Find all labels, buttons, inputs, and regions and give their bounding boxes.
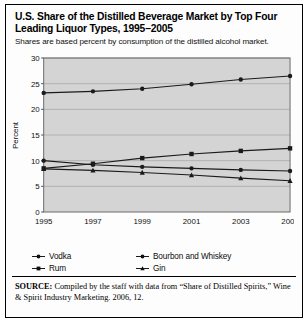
source-text: Compiled by the staff with data from “Sh… [15, 282, 291, 302]
x-tick-label: 1999 [133, 217, 151, 226]
data-point [42, 159, 46, 163]
data-point [288, 74, 292, 78]
y-axis-label-text: Percent [11, 122, 20, 149]
plot-area: 051015202530199519971999200120032005 [22, 54, 294, 234]
data-point [239, 168, 243, 172]
data-point [288, 169, 292, 173]
legend-item-rum: Rum [32, 264, 136, 273]
line-chart: 051015202530199519971999200120032005 [22, 54, 294, 234]
y-tick-label: 25 [31, 80, 40, 89]
x-tick-label: 2003 [232, 217, 250, 226]
legend-label-rum: Rum [49, 264, 66, 273]
data-point [288, 147, 292, 151]
data-point [239, 78, 243, 82]
y-tick-label: 15 [31, 131, 40, 140]
legend-marker-square-icon [32, 265, 45, 272]
y-tick-label: 0 [35, 208, 40, 217]
x-tick-label: 2005 [281, 217, 294, 226]
figure-header: U.S. Share of the Distilled Beverage Mar… [6, 5, 302, 50]
figure-title: U.S. Share of the Distilled Beverage Mar… [15, 11, 294, 35]
data-point [140, 156, 144, 160]
figure-frame: U.S. Share of the Distilled Beverage Mar… [5, 4, 303, 318]
data-point [91, 163, 95, 167]
source-prefix: SOURCE: [15, 282, 52, 291]
data-point [42, 91, 46, 95]
data-point [140, 87, 144, 91]
y-tick-label: 10 [31, 157, 40, 166]
data-point [189, 82, 193, 86]
data-point [189, 152, 193, 156]
x-tick-label: 1995 [35, 217, 53, 226]
legend-item-vodka: Vodka [32, 252, 136, 261]
x-tick-label: 1997 [84, 217, 102, 226]
y-tick-label: 5 [35, 183, 40, 192]
data-point [140, 165, 144, 169]
figure-subtitle: Shares are based percent by consumption … [15, 37, 294, 47]
data-point [189, 167, 193, 171]
legend-label-vodka: Vodka [49, 252, 71, 261]
y-axis-label: Percent [8, 52, 22, 218]
legend-item-bourbon-and-whiskey: Bourbon and Whiskey [136, 252, 302, 261]
data-point [91, 90, 95, 94]
legend-marker-circle-icon [136, 253, 149, 260]
chart-legend: Vodka Bourbon and Whiskey [6, 248, 302, 274]
chart-block: Percent 05101520253019951997199920012003… [6, 52, 302, 248]
y-tick-label: 30 [31, 54, 40, 63]
legend-marker-triangle-icon [136, 265, 149, 272]
legend-label-gin: Gin [153, 264, 165, 273]
figure-container: U.S. Share of the Distilled Beverage Mar… [0, 0, 308, 321]
legend-item-gin: Gin [136, 264, 302, 273]
data-point [239, 149, 243, 153]
source-note: SOURCE: Compiled by the staff with data … [6, 277, 302, 303]
legend-label-bourbon-and-whiskey: Bourbon and Whiskey [153, 252, 231, 261]
x-tick-label: 2001 [183, 217, 201, 226]
y-tick-label: 20 [31, 106, 40, 115]
legend-marker-circle-icon [32, 253, 45, 260]
